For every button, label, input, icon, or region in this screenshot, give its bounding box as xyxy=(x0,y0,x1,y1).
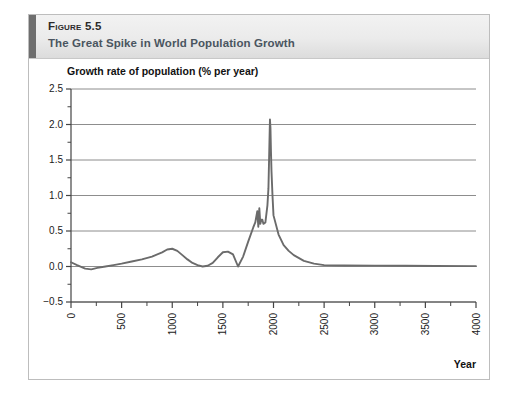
x-tick-label: 1000 xyxy=(167,313,178,336)
chart-plot-area: Growth rate of population (% per year) −… xyxy=(29,59,489,380)
x-axis-ticks-group: 05001000150020002500300035004000 xyxy=(66,302,482,335)
data-series-group xyxy=(71,120,476,270)
header-accent-bar xyxy=(29,15,36,58)
x-axis-title-group: Year xyxy=(454,358,476,370)
gridlines-group xyxy=(71,89,476,302)
y-tick-label: 0.0 xyxy=(49,261,63,272)
y-tick-label: −0.5 xyxy=(43,296,63,307)
x-tick-label: 0 xyxy=(66,313,77,319)
y-tick-label: 2.5 xyxy=(49,83,63,94)
y-axis-title-group: Growth rate of population (% per year) xyxy=(67,65,258,77)
y-tick-label: 2.0 xyxy=(49,119,63,130)
y-axis-ticks-group: −0.50.00.51.01.52.02.5 xyxy=(43,83,71,307)
x-tick-label: 1500 xyxy=(217,313,228,336)
figure-card: Figure 5.5 The Great Spike in World Popu… xyxy=(28,14,490,380)
data-series-line xyxy=(71,120,476,270)
x-tick-label: 500 xyxy=(116,313,127,330)
y-tick-label: 0.5 xyxy=(49,225,63,236)
x-tick-label: 4000 xyxy=(471,313,482,336)
x-tick-label: 3500 xyxy=(420,313,431,336)
y-tick-label: 1.5 xyxy=(49,154,63,165)
y-tick-label: 1.0 xyxy=(49,190,63,201)
figure-subtitle: The Great Spike in World Population Grow… xyxy=(48,37,295,49)
figure-header: Figure 5.5 The Great Spike in World Popu… xyxy=(29,15,489,59)
y-axis-title: Growth rate of population (% per year) xyxy=(67,65,258,77)
x-axis-title: Year xyxy=(454,358,476,370)
x-tick-label: 2000 xyxy=(268,313,279,336)
population-growth-line-chart: Growth rate of population (% per year) −… xyxy=(29,59,489,380)
figure-number-label: Figure 5.5 xyxy=(48,20,102,32)
x-tick-label: 3000 xyxy=(369,313,380,336)
x-tick-label: 2500 xyxy=(319,313,330,336)
